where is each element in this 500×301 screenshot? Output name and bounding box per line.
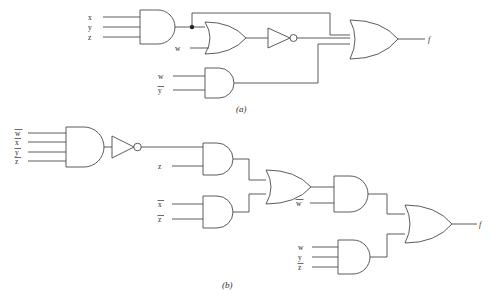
gate-b-and2 bbox=[172, 143, 233, 175]
circuit-a: x y z w w y bbox=[88, 10, 432, 114]
gate-b-and5 bbox=[312, 240, 370, 274]
gate-a-and1 bbox=[103, 10, 175, 44]
label-b-and1-in1: w bbox=[15, 129, 21, 138]
gate-b-not1 bbox=[112, 136, 141, 158]
label-a-and1-in2: y bbox=[88, 23, 92, 32]
gate-b-and3 bbox=[172, 196, 233, 228]
inverter-bubble-b bbox=[134, 143, 142, 151]
label-b-and4-in2: w bbox=[296, 199, 302, 208]
gate-b-and4 bbox=[310, 176, 368, 212]
logic-circuit-figure: x y z w w y bbox=[0, 0, 500, 301]
label-b-and5-in3: z bbox=[298, 263, 302, 272]
label-a-output: f bbox=[428, 35, 432, 44]
label-b-and5-in1: w bbox=[298, 243, 304, 252]
label-b-and5-in2: y bbox=[298, 253, 302, 262]
label-b-and1-in2: x bbox=[15, 138, 19, 147]
label-a-and1-in3: z bbox=[88, 33, 92, 42]
gate-b-and1 bbox=[28, 127, 104, 167]
caption-a: (a) bbox=[236, 104, 247, 114]
gate-a-or2 bbox=[350, 20, 398, 59]
label-a-and1-in1: x bbox=[88, 13, 92, 22]
label-b-and3-in1: x bbox=[158, 200, 162, 209]
gate-a-not1 bbox=[268, 28, 297, 48]
inverter-bubble-a bbox=[290, 35, 297, 42]
label-a-and2-in1: w bbox=[158, 72, 164, 81]
label-b-and2-in2: z bbox=[158, 162, 162, 171]
label-b-and1-in3: y bbox=[15, 148, 19, 157]
label-a-or1-in2: w bbox=[175, 44, 181, 53]
label-b-and1-in4: z bbox=[15, 157, 19, 166]
label-a-and2-in2: y bbox=[158, 86, 162, 95]
label-b-output: f bbox=[479, 220, 483, 229]
gate-b-or2 bbox=[405, 205, 452, 243]
circuit-b: w x y z z x z bbox=[15, 127, 484, 290]
gate-b-or1 bbox=[266, 170, 311, 204]
gate-a-and2 bbox=[173, 68, 234, 98]
label-b-and3-in2: z bbox=[158, 215, 162, 224]
caption-b: (b) bbox=[222, 280, 233, 290]
